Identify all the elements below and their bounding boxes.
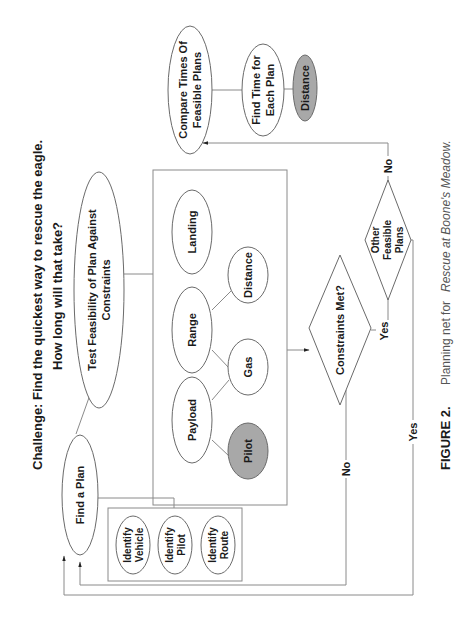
title-line-2: How long will that take? (50, 222, 65, 370)
svg-text:Pilot: Pilot (176, 534, 187, 556)
label-constraints-no: No (340, 461, 352, 476)
label-other-no: No (382, 158, 394, 173)
node-identify-pilot: Identify Pilot (158, 516, 192, 574)
svg-text:Gas: Gas (242, 357, 254, 378)
link-payload-pilot (212, 440, 229, 456)
node-constraints-met: Constraints Met? (309, 255, 371, 405)
svg-text:Distance: Distance (242, 252, 254, 298)
node-find-time: Find Time for Each Plan (242, 44, 284, 136)
svg-text:Identify: Identify (164, 527, 175, 563)
svg-text:Find Time for: Find Time for (250, 55, 262, 125)
svg-text:Constraints Met?: Constraints Met? (334, 285, 346, 375)
caption-text-prefix: Planning net for (439, 301, 453, 385)
svg-text:Landing: Landing (186, 211, 198, 254)
svg-text:Route: Route (219, 530, 230, 559)
svg-text:Constraints: Constraints (100, 259, 112, 320)
svg-text:Feasible: Feasible (382, 220, 393, 260)
planning-net-diagram: Challenge: Find the quickest way to resc… (0, 0, 467, 624)
svg-text:Identify: Identify (207, 527, 218, 563)
edge-other-no (203, 143, 388, 190)
svg-text:Feasible Plans: Feasible Plans (191, 52, 203, 128)
caption-text-italic: Rescue at Boone's Meadow. (439, 140, 453, 292)
svg-text:Plans: Plans (394, 226, 405, 253)
svg-text:Other: Other (370, 227, 381, 254)
caption-figure-label: FIGURE 2. (438, 406, 453, 470)
node-landing: Landing (172, 190, 212, 274)
node-pilot: Pilot (228, 423, 268, 479)
node-other-feasible: Other Feasible Plans (365, 180, 411, 300)
label-constraints-yes: Yes (378, 322, 390, 341)
label-other-yes: Yes (407, 423, 419, 442)
link-payload-gas (212, 380, 229, 400)
svg-text:Vehicle: Vehicle (134, 527, 145, 562)
svg-text:Find a Plan: Find a Plan (74, 465, 86, 524)
edge-find-to-identify (98, 498, 174, 508)
node-range: Range (172, 287, 212, 373)
node-distance-shaded: Distance (293, 55, 317, 121)
title: Challenge: Find the quickest way to resc… (30, 140, 65, 470)
svg-text:Distance: Distance (299, 65, 311, 111)
link-range-distance (212, 290, 232, 310)
svg-text:Identify: Identify (122, 527, 133, 563)
node-identify-route: Identify Route (201, 516, 235, 574)
figure-caption: FIGURE 2. Planning net for Rescue at Boo… (438, 140, 453, 470)
link-range-gas (212, 350, 229, 368)
svg-text:Compare Times Of: Compare Times Of (177, 41, 189, 139)
node-test-feasibility: Test Feasibility of Plan Against Constra… (74, 172, 124, 408)
svg-text:Range: Range (186, 313, 198, 347)
node-identify-vehicle: Identify Vehicle (116, 516, 150, 574)
svg-text:Test Feasibility of Plan Again: Test Feasibility of Plan Against (86, 209, 98, 371)
node-distance: Distance (228, 247, 268, 303)
svg-text:Each Plan: Each Plan (264, 63, 276, 116)
svg-text:Payload: Payload (186, 399, 198, 441)
node-find-plan: Find a Plan (62, 435, 98, 555)
node-gas: Gas (228, 339, 268, 395)
node-payload: Payload (172, 377, 212, 463)
node-compare-times: Compare Times Of Feasible Plans (168, 26, 212, 154)
svg-text:Pilot: Pilot (242, 439, 254, 463)
title-line-1: Challenge: Find the quickest way to resc… (30, 140, 45, 470)
